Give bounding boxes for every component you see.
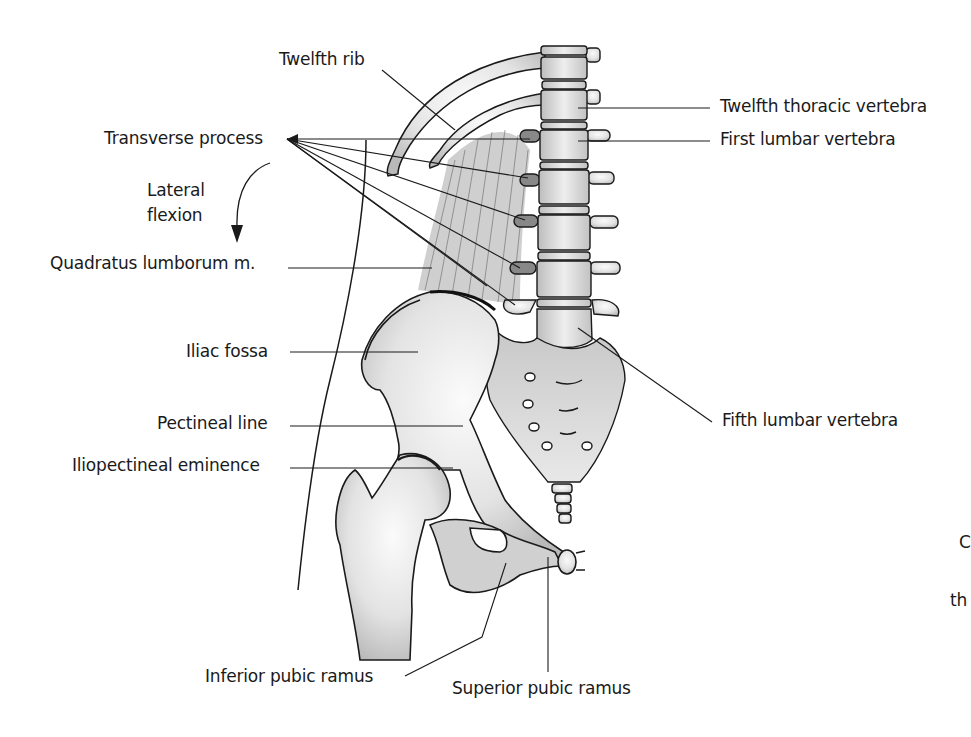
label-lateral: Lateral	[147, 180, 205, 200]
femur	[336, 454, 450, 660]
label-twelfth-thoracic-vertebra: Twelfth thoracic vertebra	[720, 96, 927, 116]
label-iliopectineal-eminence: Iliopectineal eminence	[72, 455, 260, 475]
clipped-text-c: C	[959, 532, 971, 552]
label-superior-pubic-ramus: Superior pubic ramus	[452, 678, 631, 698]
clipped-text-th: th	[950, 590, 967, 610]
label-flexion: flexion	[147, 205, 202, 225]
label-fifth-lumbar-vertebra: Fifth lumbar vertebra	[722, 410, 898, 430]
label-first-lumbar-vertebra: First lumbar vertebra	[720, 129, 895, 149]
sacrum	[486, 330, 625, 523]
label-inferior-pubic-ramus: Inferior pubic ramus	[205, 666, 373, 686]
label-iliac-fossa: Iliac fossa	[186, 341, 268, 361]
label-pectineal-line: Pectineal line	[157, 413, 268, 433]
label-quadratus-lumborum: Quadratus lumborum m.	[50, 253, 255, 273]
label-twelfth-rib: Twelfth rib	[279, 49, 365, 69]
lateral-flexion-arrow-icon	[231, 134, 298, 243]
label-transverse-process: Transverse process	[104, 128, 263, 148]
